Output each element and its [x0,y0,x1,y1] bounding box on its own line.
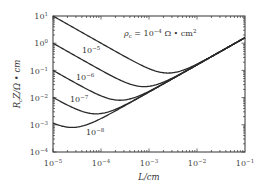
curve-label-1e-5: 10−5 [82,45,101,55]
rho-annotation: ρc = 10−4 Ω • cm2 [123,28,196,39]
curve-label-1e-8: 10−8 [86,127,105,137]
x-tick-m2: 10−2 [188,158,206,168]
y-tick-labels: 101 100 10−1 10−2 10−3 10−4 [30,11,49,157]
y-tick-m4: 10−4 [30,147,49,157]
x-tick-labels: 10−5 10−4 10−3 10−2 10−1 [44,158,254,168]
x-tick-m4: 10−4 [92,158,111,168]
y-tick-m3: 10−3 [30,120,49,130]
curve-label-1e-7: 10−7 [70,94,89,104]
x-tick-m1: 10−1 [236,158,254,168]
x-tick-m3: 10−3 [140,158,159,168]
y-tick-0: 100 [34,38,48,48]
chart: 101 100 10−1 10−2 10−3 10−4 10−5 10−4 10… [0,0,265,190]
y-tick-m2: 10−2 [30,93,48,103]
y-tick-1: 101 [34,11,48,21]
y-tick-m1: 10−1 [30,66,48,76]
x-axis-title: L/cm [137,172,159,182]
curve-rho-10^-4 [53,16,245,73]
x-tick-m5: 10−5 [44,158,63,168]
curve-label-1e-6: 10−6 [76,72,95,82]
y-axis-title: RcZ/Ω • cm [12,60,23,110]
curve-labels: 10−5 10−6 10−7 10−8 [70,45,105,137]
